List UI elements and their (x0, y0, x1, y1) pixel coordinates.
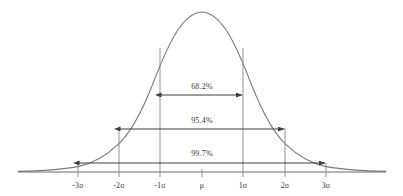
normal-distribution-curve (18, 12, 386, 171)
axis-tick-label-minus-1-sigma: -1σ (140, 181, 180, 190)
interval-label-95: 95.4% (172, 116, 232, 125)
axis-tick-label-mu: μ (182, 181, 222, 190)
bell-curve-canvas (0, 0, 403, 196)
axis-tick-label-minus-2-sigma: -2σ (99, 181, 139, 190)
interval-label-99: 99.7% (172, 149, 232, 158)
axis-tick-label-plus-1-sigma: 1σ (223, 181, 263, 190)
axis-tick-label-minus-3-sigma: -3σ (58, 181, 98, 190)
axis-tick-label-plus-3-sigma: 3σ (306, 181, 346, 190)
interval-label-68: 68.2% (172, 82, 232, 91)
axis-tick-label-plus-2-sigma: 2σ (265, 181, 305, 190)
normal-distribution-figure: 68.2% 95.4% 99.7% -3σ -2σ -1σ μ 1σ 2σ 3σ (0, 0, 403, 196)
